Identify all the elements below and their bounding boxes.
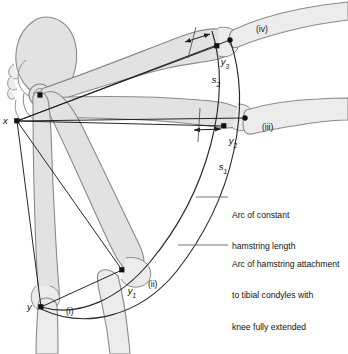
measure-label-s1-sub: 1	[224, 168, 228, 175]
annotation-arc-attachment-line-1: Arc of hamstring attachment	[232, 259, 339, 269]
marker-point-x	[14, 118, 19, 123]
point-label-y1: y1	[110, 259, 136, 319]
position-label-ii: (ii)	[148, 279, 157, 289]
marker-condyle-iii	[242, 115, 247, 120]
position-label-i: (i)	[66, 306, 74, 316]
annotation-arc-constant-line-1: Arc of constant	[232, 210, 296, 220]
leader-lines	[178, 197, 228, 245]
measure-label-s2: s2	[194, 48, 220, 108]
measure-label-s2-sub: 2	[217, 81, 221, 88]
marker-point-y	[38, 304, 43, 309]
annotation-arc-attachment-line-3: knee fully extended	[232, 322, 339, 332]
measure-label-s1: s1	[201, 135, 227, 195]
position-label-iv: (iv)	[256, 24, 268, 34]
point-label-y3-sub: 3	[226, 63, 230, 70]
marker-hip-joint	[37, 92, 42, 97]
annotation-arc-attachment-line-2: to tibial condyles with	[232, 290, 339, 300]
point-label-y2-sub: 2	[234, 142, 238, 149]
point-label-x: x	[3, 115, 8, 127]
position-label-iii: (iii)	[262, 122, 273, 132]
tibia-iv	[229, 2, 348, 48]
figure-canvas: x y y1 y2 y3 s1 s2 (i) (ii) (iii) (iv) A…	[0, 0, 348, 354]
tibia-iii	[243, 98, 348, 134]
annotation-arc-attachment: Arc of hamstring attachment to tibial co…	[232, 238, 339, 353]
point-label-y: y	[27, 301, 32, 313]
point-label-y1-sub: 1	[133, 292, 137, 299]
